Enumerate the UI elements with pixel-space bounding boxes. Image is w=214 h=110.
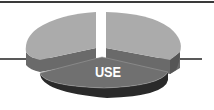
slice-label-use: USE <box>91 63 125 80</box>
pie-chart-3d <box>0 0 214 110</box>
